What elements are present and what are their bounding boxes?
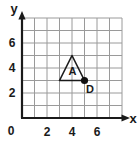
y-tick-label-4: 4 xyxy=(9,61,16,75)
triangle-a-label: A xyxy=(69,65,77,77)
coordinate-grid-svg: y x 0 2 4 6 2 4 6 A D xyxy=(0,0,139,147)
origin-tick-label: 0 xyxy=(8,124,15,138)
x-tick-label-2: 2 xyxy=(44,125,51,139)
y-axis-label: y xyxy=(10,1,18,16)
y-tick-label-6: 6 xyxy=(9,36,16,50)
x-axis-label: x xyxy=(129,111,137,126)
coordinate-plane-figure: y x 0 2 4 6 2 4 6 A D xyxy=(0,0,139,147)
x-tick-label-4: 4 xyxy=(69,125,76,139)
y-tick-label-2: 2 xyxy=(9,86,16,100)
y-axis-arrowhead xyxy=(18,11,25,20)
x-tick-label-6: 6 xyxy=(94,125,101,139)
point-d-label: D xyxy=(86,83,94,95)
